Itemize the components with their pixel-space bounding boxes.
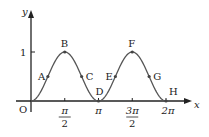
- point-label-e: E: [105, 71, 112, 82]
- y-axis-arrow-icon: [28, 10, 34, 18]
- point-e: [114, 75, 117, 78]
- x-tick-denominator: 2: [62, 118, 68, 129]
- point-g: [148, 75, 151, 78]
- point-a: [46, 75, 49, 78]
- sine-squared-graph: x y O π2π3π22π1 ABCDEFGH: [0, 0, 209, 137]
- point-c: [80, 75, 83, 78]
- point-label-a: A: [37, 71, 46, 82]
- point-d: [97, 99, 100, 102]
- y-axis-label: y: [21, 6, 28, 17]
- point-f: [131, 50, 134, 53]
- x-tick-numerator: 3π: [126, 105, 139, 116]
- y-tick-label: 1: [20, 47, 26, 58]
- point-label-d: D: [96, 86, 104, 97]
- x-axis-label: x: [194, 99, 200, 110]
- point-b: [63, 50, 66, 53]
- point-label-c: C: [86, 71, 94, 82]
- point-label-f: F: [128, 38, 135, 49]
- x-axis-arrow-icon: [184, 98, 192, 104]
- x-tick-numerator: π: [60, 105, 68, 116]
- point-label-h: H: [169, 86, 178, 97]
- x-tick-denominator: 2: [129, 118, 135, 129]
- point-label-b: B: [61, 38, 68, 49]
- point-label-g: G: [153, 71, 161, 82]
- x-tick-label: 2π: [161, 105, 175, 116]
- origin-label: O: [19, 104, 27, 115]
- x-tick-label: π: [94, 105, 102, 116]
- point-h: [164, 99, 167, 102]
